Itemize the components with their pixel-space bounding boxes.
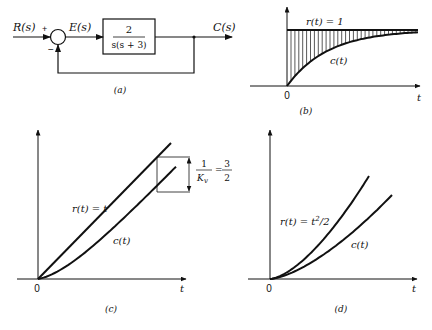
response-curve	[38, 167, 176, 279]
steady-state-error-label: 1 K v = 3 2	[196, 159, 232, 185]
figure: R(s) + − E(s) 2 s(s + 3) C(s) (a) r(t) =…	[0, 0, 432, 330]
reference-parabola	[270, 176, 369, 279]
svg-text:3: 3	[224, 159, 230, 169]
error-label: E(s)	[68, 21, 91, 34]
panel-c-ramp-response: 1 K v = 3 2 r(t) = t c(t) 0 t (c)	[17, 130, 232, 314]
caption-d: (d)	[335, 304, 348, 314]
reference-label: r(t) = t	[72, 203, 108, 214]
caption-b: (b)	[300, 106, 313, 116]
response-label: c(t)	[330, 55, 348, 66]
output-label: C(s)	[213, 21, 236, 34]
minus-sign: −	[48, 44, 54, 55]
response-label: c(t)	[113, 235, 131, 246]
origin-label: 0	[266, 283, 272, 294]
caption-c: (c)	[105, 304, 118, 314]
summing-junction	[51, 30, 66, 45]
error-bottom-line	[157, 157, 190, 192]
panel-d-parabolic-response: r(t) = t2/2 c(t) 0 t (d)	[248, 130, 417, 314]
panel-b-step-response: r(t) = 1 c(t) 0 t (b)	[250, 7, 422, 116]
svg-text:=: =	[215, 165, 223, 175]
x-axis-label: t	[417, 92, 422, 103]
svg-text:1: 1	[201, 159, 207, 169]
panel-a-block-diagram: R(s) + − E(s) 2 s(s + 3) C(s) (a)	[12, 19, 236, 95]
caption-a: (a)	[114, 85, 127, 95]
plus-sign: +	[42, 24, 47, 34]
svg-text:v: v	[204, 177, 208, 185]
origin-label: 0	[284, 90, 290, 101]
block-denominator: s(s + 3)	[111, 40, 146, 50]
error-area-hatching	[291, 30, 416, 81]
block-numerator: 2	[126, 24, 132, 35]
response-label: c(t)	[351, 239, 369, 250]
reference-label: r(t) = t2/2	[280, 215, 330, 227]
x-axis-label: t	[412, 283, 417, 294]
input-label: R(s)	[12, 21, 36, 34]
reference-label: r(t) = 1	[306, 16, 344, 27]
origin-label: 0	[34, 283, 40, 294]
response-curve	[270, 195, 392, 279]
x-axis-label: t	[180, 283, 185, 294]
svg-text:2: 2	[224, 173, 230, 183]
